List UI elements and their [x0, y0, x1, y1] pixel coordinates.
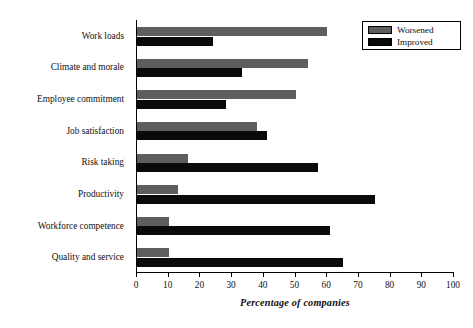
x-axis-tick-label: 50	[290, 280, 299, 290]
x-axis-tick-label: 40	[258, 280, 267, 290]
legend-item-worsened: Worsened	[368, 25, 434, 35]
legend-swatch-improved	[368, 38, 392, 46]
legend-item-improved: Improved	[368, 37, 433, 47]
y-axis-label: Quality and service	[52, 252, 124, 262]
bar-improved	[137, 100, 226, 109]
bar-worsened	[137, 217, 169, 226]
bar-improved	[137, 258, 343, 267]
y-axis-label: Job satisfaction	[66, 126, 124, 136]
legend-label-improved: Improved	[397, 37, 433, 47]
bar-improved	[137, 131, 267, 140]
x-axis-tick	[295, 273, 296, 277]
y-axis-label: Climate and morale	[51, 62, 124, 72]
x-axis-tick-label: 60	[322, 280, 331, 290]
bar-chart: Work loadsClimate and moraleEmployee com…	[0, 0, 473, 328]
legend-label-worsened: Worsened	[397, 25, 434, 35]
bar-worsened	[137, 90, 296, 99]
x-axis-tick-label: 90	[417, 280, 426, 290]
bar-worsened	[137, 59, 308, 68]
bar-worsened	[137, 185, 178, 194]
bar-improved	[137, 163, 318, 172]
y-axis-category-labels: Work loadsClimate and moraleEmployee com…	[0, 20, 130, 273]
bar-improved	[137, 226, 330, 235]
x-axis-tick	[263, 273, 264, 277]
x-axis-tick-label: 10	[163, 280, 172, 290]
x-axis-tick-label: 80	[385, 280, 394, 290]
y-axis-label: Employee commitment	[37, 94, 124, 104]
x-axis-tick	[231, 273, 232, 277]
x-axis-tick-label: 100	[446, 280, 460, 290]
bar-improved	[137, 195, 375, 204]
chart-legend: Worsened Improved	[362, 21, 461, 50]
x-axis-tick	[453, 273, 454, 277]
x-axis-title: Percentage of companies	[136, 297, 454, 308]
bar-worsened	[137, 122, 257, 131]
bar-worsened	[137, 248, 169, 257]
x-axis-tick-label: 0	[134, 280, 139, 290]
bar-improved	[137, 37, 213, 46]
bar-improved	[137, 68, 242, 77]
bar-worsened	[137, 154, 188, 163]
y-axis-label: Workforce competence	[38, 221, 124, 231]
x-axis-tick-label: 20	[195, 280, 204, 290]
x-axis-tick	[358, 273, 359, 277]
x-axis-tick	[168, 273, 169, 277]
x-axis-tick	[136, 273, 137, 277]
x-axis-tick	[421, 273, 422, 277]
y-axis-label: Risk taking	[81, 157, 124, 167]
y-axis-label: Productivity	[78, 189, 124, 199]
x-axis-tick-label: 30	[226, 280, 235, 290]
x-axis-tick	[390, 273, 391, 277]
x-axis-tick	[199, 273, 200, 277]
y-axis-label: Work loads	[82, 31, 124, 41]
x-axis-tick	[326, 273, 327, 277]
bar-worsened	[137, 27, 327, 36]
plot-area	[136, 20, 453, 273]
x-axis-tick-label: 70	[353, 280, 362, 290]
legend-swatch-worsened	[368, 26, 392, 34]
